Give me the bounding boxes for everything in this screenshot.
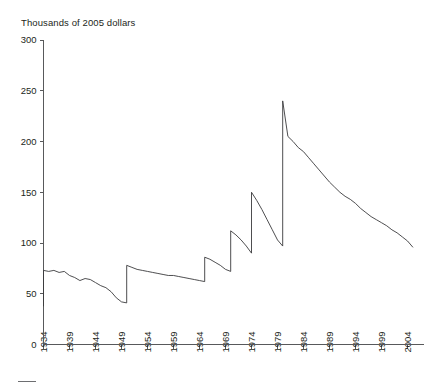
y-axis-tick-label: 300 xyxy=(21,34,37,45)
y-axis-tick-label: 250 xyxy=(21,85,37,96)
x-axis-tick-label: 1994 xyxy=(350,331,361,352)
y-axis-tick-label: 150 xyxy=(21,187,37,198)
x-axis-tick-label: 1954 xyxy=(142,331,153,352)
x-axis-tick-label: 1959 xyxy=(168,331,179,352)
x-axis-tick-label: 1989 xyxy=(324,331,335,352)
y-axis-tick-label: 100 xyxy=(21,237,37,248)
x-axis-tick-label: 1949 xyxy=(116,331,127,352)
y-axis-tick-group: 300250200150100500 xyxy=(21,34,44,350)
x-axis-tick-group: 1934193919441949195419591964196919741979… xyxy=(38,331,413,352)
x-axis-tick-label: 1984 xyxy=(298,331,309,352)
x-axis-tick-label: 2004 xyxy=(402,331,413,352)
data-series-line xyxy=(44,101,413,306)
x-axis-tick-label: 1999 xyxy=(376,331,387,352)
chart-figure: Thousands of 2005 dollars 30025020015010… xyxy=(0,0,432,391)
y-axis-tick-label: 50 xyxy=(26,288,37,299)
x-axis-tick-label: 1979 xyxy=(272,331,283,352)
x-axis-tick-label: 1964 xyxy=(194,331,205,352)
chart-plot-area: 300250200150100500 193419391944194919541… xyxy=(0,0,432,391)
footer-divider xyxy=(18,381,36,382)
x-axis-tick-label: 1969 xyxy=(220,331,231,352)
y-axis-tick-label: 0 xyxy=(31,339,36,350)
x-axis-tick-label: 1939 xyxy=(64,331,75,352)
y-axis-tick-label: 200 xyxy=(21,136,37,147)
x-axis-tick-label: 1974 xyxy=(246,331,257,352)
x-axis-tick-label: 1944 xyxy=(90,331,101,352)
